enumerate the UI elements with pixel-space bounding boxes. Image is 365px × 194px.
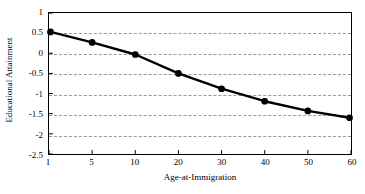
data-point-marker bbox=[346, 114, 353, 121]
data-series-line bbox=[49, 13, 351, 154]
y-axis-title: Educational Attainment bbox=[0, 0, 18, 160]
data-point-marker bbox=[218, 85, 225, 92]
y-axis-tick-labels: 10.50-0.5-1-1.5-2-2.5 bbox=[18, 12, 46, 155]
data-point-marker bbox=[132, 51, 139, 58]
y-axis-tick-label: 1 bbox=[39, 8, 44, 17]
y-axis-tick-label: -1 bbox=[36, 89, 44, 98]
plot-area bbox=[48, 12, 352, 155]
x-axis-tick-label: 50 bbox=[304, 157, 313, 168]
x-axis-tick-label: 5 bbox=[89, 157, 94, 168]
data-point-marker bbox=[261, 98, 268, 105]
y-axis-tick-label: -2 bbox=[36, 130, 44, 139]
chart-container: Educational Attainment 10.50-0.5-1-1.5-2… bbox=[0, 0, 365, 194]
x-axis-tick-labels: 15102030405060 bbox=[48, 157, 352, 171]
data-point-marker bbox=[175, 70, 182, 77]
x-axis-tick-label: 10 bbox=[130, 157, 139, 168]
x-axis-title: Age-at-Immigration bbox=[48, 172, 352, 182]
y-axis-tick-label: 0.5 bbox=[32, 28, 43, 37]
data-point-marker bbox=[89, 39, 96, 46]
series-line bbox=[50, 32, 349, 118]
x-axis-tick-label: 20 bbox=[174, 157, 183, 168]
data-point-marker bbox=[47, 29, 54, 36]
x-axis-tick-label: 1 bbox=[46, 157, 51, 168]
y-axis-tick-label: -0.5 bbox=[29, 69, 43, 78]
x-axis-tick-label: 30 bbox=[217, 157, 226, 168]
y-axis-title-text: Educational Attainment bbox=[4, 37, 14, 122]
data-point-marker bbox=[304, 108, 311, 115]
x-axis-tick-label: 40 bbox=[261, 157, 270, 168]
y-axis-tick-label: -1.5 bbox=[29, 110, 43, 119]
y-axis-tick-label: 0 bbox=[39, 48, 44, 57]
x-axis-tick-label: 60 bbox=[348, 157, 357, 168]
y-axis-tick-label: -2.5 bbox=[29, 151, 43, 160]
